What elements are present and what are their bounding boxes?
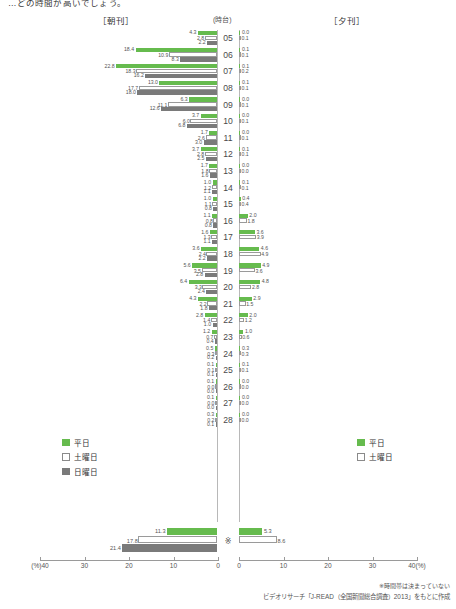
hour-label: 21 — [217, 296, 239, 313]
chart-row: 22.818.316.20.10.207 — [0, 63, 456, 80]
axis-tick — [85, 557, 86, 561]
bar-value-label: 0.1 — [242, 184, 249, 193]
bar-value-label: 0.3 — [242, 350, 249, 359]
bar-weekday: 4.6 — [239, 247, 259, 251]
note-asterisk: ※時間帯は決まっていない — [379, 581, 450, 590]
bar-group-evening: 0.10.1 — [239, 362, 416, 379]
hour-label: 11 — [217, 130, 239, 147]
bar-saturday: 2.4 — [206, 252, 217, 256]
chart-row: 3.76.06.80.00.110 — [0, 113, 456, 130]
hour-label: 07 — [217, 63, 239, 80]
hour-label: 17 — [217, 229, 239, 246]
bar-saturday: 3.9 — [239, 235, 256, 239]
bar-weekday: 0.0 — [239, 131, 240, 135]
bar-group-evening: 2.01.8 — [239, 213, 416, 230]
chart-row: 1.72.63.00.00.111 — [0, 130, 456, 147]
bar-saturday: 6.0 — [190, 119, 217, 123]
bar-group-evening: 1.00.6 — [239, 329, 416, 346]
bar-group-evening: 0.10.1 — [239, 80, 416, 97]
axis-tick-label: 0 — [216, 562, 220, 569]
legend-swatch-saturday — [357, 453, 365, 461]
bar-group-morning: 1.01.10.8 — [40, 196, 217, 213]
bar-value-label: 0.2 — [242, 67, 249, 76]
bar-saturday: 0.1 — [239, 368, 241, 372]
bar-value-label: 0.1 — [242, 51, 249, 60]
summary-value-label: 11.3 — [155, 527, 165, 536]
bar-group-evening: 0.40.4 — [239, 196, 416, 213]
bar-group-morning: 0.10.00.0 — [40, 378, 217, 395]
bar-value-label: 3.6 — [255, 267, 262, 276]
bar-weekday: 0.1 — [239, 363, 240, 367]
bar-group-evening: 0.00.1 — [239, 96, 416, 113]
bar-value-label: 0.0 — [242, 399, 249, 408]
hour-label: 08 — [217, 80, 239, 97]
bar-group-evening: 0.10.1 — [239, 146, 416, 163]
bar-weekday: 0.0 — [239, 164, 240, 168]
axis-tick — [284, 557, 285, 561]
hour-label: 13 — [217, 163, 239, 180]
bar-saturday: 1.2 — [239, 318, 244, 322]
bar-saturday: 1.5 — [239, 301, 246, 305]
caption-morning: ［朝刊］ — [98, 14, 134, 26]
bar-saturday: 0.4 — [239, 202, 241, 206]
bar-group-morning: 13.017.718.0 — [40, 80, 217, 97]
hour-label: 06 — [217, 47, 239, 64]
bar-value-label: 2.8 — [252, 283, 259, 292]
bar-saturday: 0.1 — [239, 185, 241, 189]
chart-row: 13.017.718.00.10.108 — [0, 80, 456, 97]
bar-group-evening: 0.00.1 — [239, 113, 416, 130]
bar-saturday: 11.1 — [168, 102, 217, 106]
bar-saturday: 0.3 — [239, 351, 241, 355]
bar-group-evening: 2.01.2 — [239, 312, 416, 329]
bar-weekday: 0.4 — [239, 197, 241, 201]
summary-bar-weekday: 5.3 — [239, 528, 262, 535]
bar-saturday: 2.6 — [206, 135, 218, 139]
hour-label: 14 — [217, 179, 239, 196]
axis-tick — [328, 557, 329, 561]
bar-group-morning: 0.50.30.2 — [40, 345, 217, 362]
bar-sunday: 12.6 — [161, 107, 217, 111]
chart-row: 0.10.10.10.10.125 — [0, 362, 456, 379]
axis-tick — [218, 557, 219, 561]
summary-bar-weekday: 11.3 — [167, 528, 217, 535]
bar-weekday: 6.3 — [189, 97, 217, 101]
bar-weekday: 0.1 — [239, 64, 240, 68]
chart-row: 1.01.21.10.10.114 — [0, 179, 456, 196]
bar-value-label: 0.1 — [207, 420, 214, 429]
bar-group-morning: 4.32.21.8 — [40, 296, 217, 313]
axis-tick-label: 10 — [170, 562, 177, 569]
chart-row: 4.32.82.20.00.105 — [0, 30, 456, 47]
chart-row: 6.43.32.44.82.820 — [0, 279, 456, 296]
hour-label: 27 — [217, 395, 239, 412]
bar-sunday: 2.4 — [206, 290, 217, 294]
bar-weekday: 0.3 — [239, 346, 240, 350]
summary-value-label: 5.3 — [264, 527, 272, 536]
axis-tick-label: 20 — [324, 562, 331, 569]
bar-weekday: 0.0 — [239, 379, 240, 383]
bar-weekday: 3.7 — [201, 114, 217, 118]
chart-row: 2.81.41.02.01.222 — [0, 312, 456, 329]
chart-row: 4.32.21.82.91.521 — [0, 296, 456, 313]
bar-value-label: 1.2 — [245, 316, 252, 325]
bar-group-morning: 6.311.112.6 — [40, 96, 217, 113]
bar-weekday: 13.0 — [159, 81, 217, 85]
bar-saturday: 0.0 — [239, 401, 241, 405]
legend-item-weekday: 平日 — [357, 437, 393, 448]
summary-evening-bars: 5.38.6 — [239, 527, 416, 555]
bar-group-morning: 1.72.63.0 — [40, 130, 217, 147]
caption-hour-unit: (時台) — [213, 14, 232, 24]
bar-weekday: 3.6 — [239, 230, 255, 234]
bar-saturday: 0.0 — [239, 169, 241, 173]
axis-tick — [40, 557, 41, 561]
summary-bar-saturday: 8.6 — [239, 536, 277, 543]
bar-saturday: 3.6 — [239, 268, 255, 272]
axis-tick-label: 40(%) — [408, 562, 426, 569]
bar-group-morning: 0.10.10.1 — [40, 362, 217, 379]
bar-saturday: 2.8 — [239, 285, 251, 289]
bar-group-evening: 0.10.2 — [239, 63, 416, 80]
chart-row: 6.311.112.60.00.109 — [0, 96, 456, 113]
hour-label: 25 — [217, 362, 239, 379]
bar-saturday: 0.1 — [239, 36, 241, 40]
bar-weekday: 0.1 — [239, 81, 240, 85]
bar-saturday: 0.6 — [239, 335, 242, 339]
